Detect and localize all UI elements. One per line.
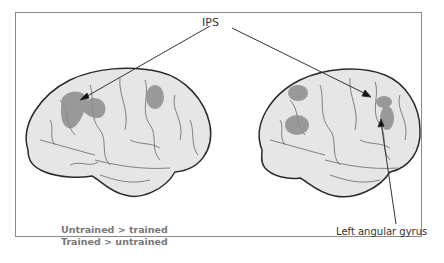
legend: Untrained > trained Trained > untrained bbox=[61, 224, 168, 248]
right-brain bbox=[259, 69, 420, 197]
left-brain bbox=[26, 68, 210, 196]
angular-gyrus-label: Left angular gyrus bbox=[336, 226, 427, 237]
legend-item-trained: Trained > untrained bbox=[61, 236, 168, 248]
ips-label: IPS bbox=[202, 16, 219, 29]
legend-item-untrained: Untrained > trained bbox=[61, 224, 168, 236]
